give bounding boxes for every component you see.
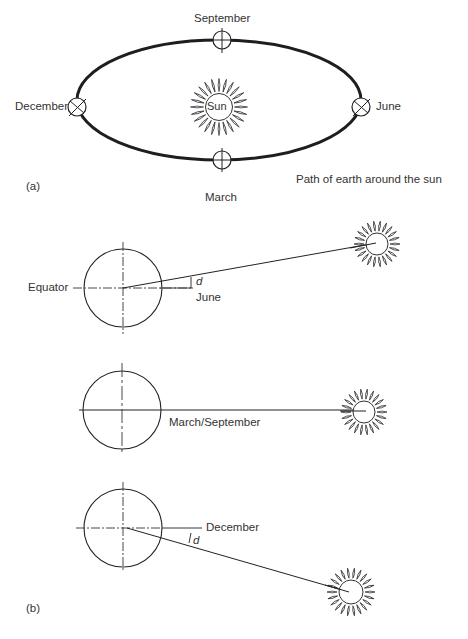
diagram-december: [76, 482, 375, 616]
label-season-june: June: [196, 292, 221, 304]
label-march: March: [205, 192, 237, 204]
diagram-canvas: [0, 0, 468, 639]
earth-marker-june: [352, 98, 370, 116]
panel-a-label: (a): [26, 181, 40, 193]
earth-marker-september: [213, 28, 231, 53]
diagram-june: [73, 221, 400, 334]
sun-ray-line: [127, 528, 349, 592]
label-season-december: December: [206, 522, 259, 534]
angle-d-label-june: d: [196, 276, 202, 288]
label-season-march-september: March/September: [169, 417, 260, 429]
sun-icon: [341, 389, 387, 435]
angle-d-label-december: d: [193, 535, 199, 547]
sun-icon: [354, 221, 400, 267]
earth-marker-december: [68, 98, 86, 116]
equator-label: Equator: [28, 282, 68, 294]
orbit-caption: Path of earth around the sun: [296, 174, 442, 186]
label-june: June: [376, 101, 401, 113]
sun-label: Sun: [207, 101, 227, 112]
panel-b-label: (b): [26, 603, 40, 615]
diagram-march-september: [79, 363, 387, 453]
label-december: December: [15, 101, 68, 113]
sun-ray-line: [123, 243, 376, 288]
label-september: September: [194, 13, 250, 25]
earth-marker-march: [213, 148, 231, 172]
sun-icon: [327, 568, 375, 616]
